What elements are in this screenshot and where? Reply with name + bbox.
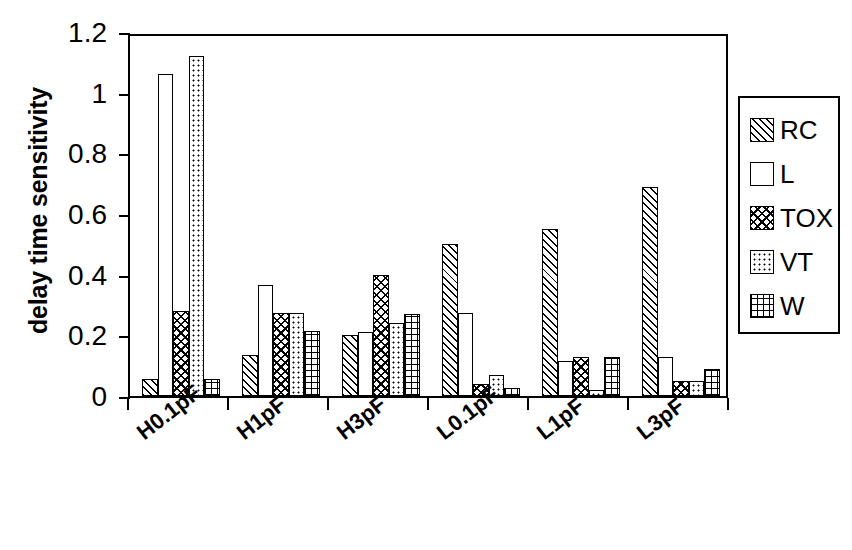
bar	[689, 381, 705, 396]
x-tick-mark	[627, 398, 629, 410]
bar	[289, 313, 305, 396]
legend-item-vt[interactable]: VT	[750, 240, 838, 284]
bar	[273, 313, 289, 396]
bar	[404, 314, 420, 396]
y-tick-label: 0.4	[45, 262, 107, 290]
bar	[342, 335, 358, 396]
bar	[589, 390, 605, 396]
bar	[573, 357, 589, 396]
legend-label: TOX	[780, 205, 833, 231]
bar-group	[530, 36, 630, 396]
legend-swatch-icon	[750, 206, 774, 230]
x-category-label: L3pF	[632, 393, 689, 446]
x-tick-mark	[327, 398, 329, 410]
bar	[642, 187, 658, 396]
y-tick-label: 0.6	[45, 201, 107, 229]
legend-label: RC	[780, 117, 818, 143]
y-tick-label: 0.8	[45, 140, 107, 168]
legend: RCLTOXVTW	[738, 96, 840, 334]
x-category-label: H3pF	[332, 391, 391, 445]
bar	[189, 56, 205, 396]
bar	[258, 285, 274, 396]
legend-label: W	[780, 293, 805, 319]
bar	[458, 313, 474, 396]
bar	[373, 275, 389, 396]
bar	[242, 355, 258, 396]
legend-swatch-icon	[750, 162, 774, 186]
bar-chart: delay time sensitivity 00.20.40.60.811.2…	[0, 0, 852, 550]
legend-label: L	[780, 161, 794, 187]
y-tick-label: 0	[45, 383, 107, 411]
bar	[542, 229, 558, 396]
legend-item-w[interactable]: W	[750, 284, 838, 328]
bar	[558, 361, 574, 396]
y-tick-label: 1.2	[45, 19, 107, 47]
x-tick-mark	[727, 398, 729, 410]
bar	[673, 381, 689, 396]
bar-group	[230, 36, 330, 396]
bar	[704, 369, 720, 396]
legend-item-l[interactable]: L	[750, 152, 838, 196]
legend-item-tox[interactable]: TOX	[750, 196, 838, 240]
legend-item-rc[interactable]: RC	[750, 108, 838, 152]
bar	[604, 357, 620, 396]
x-tick-mark	[227, 398, 229, 410]
bar	[204, 379, 220, 396]
legend-swatch-icon	[750, 294, 774, 318]
legend-swatch-icon	[750, 250, 774, 274]
bars-container	[130, 36, 726, 396]
bar	[504, 388, 520, 396]
bar	[658, 357, 674, 396]
bar	[389, 323, 405, 396]
bar	[358, 332, 374, 396]
bar	[442, 244, 458, 396]
x-category-label: H1pF	[232, 391, 291, 445]
bar-group	[330, 36, 430, 396]
bar	[158, 74, 174, 396]
x-category-label: L1pF	[532, 393, 589, 446]
legend-swatch-icon	[750, 118, 774, 142]
bar	[142, 379, 158, 396]
bar	[304, 331, 320, 396]
y-tick-label: 0.2	[45, 322, 107, 350]
y-tick-label: 1	[45, 80, 107, 108]
plot-area	[128, 34, 728, 398]
legend-label: VT	[780, 249, 813, 275]
y-axis-tick-labels: 00.20.40.60.811.2	[45, 0, 107, 550]
x-tick-mark	[427, 398, 429, 410]
bar-group	[430, 36, 530, 396]
x-tick-mark	[127, 398, 129, 410]
bar-group	[130, 36, 230, 396]
x-tick-mark	[527, 398, 529, 410]
bar-group	[630, 36, 730, 396]
